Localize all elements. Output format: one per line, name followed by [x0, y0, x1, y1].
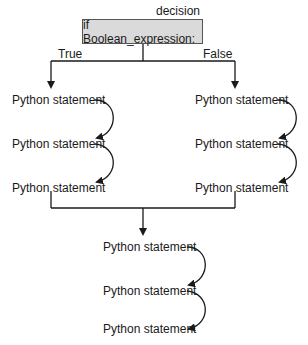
false-branch-label: False: [203, 47, 232, 61]
true-statement-3: Python statement: [12, 181, 105, 195]
after-statement-2: Python statement: [103, 284, 196, 298]
decision-box: if Boolean_expression:: [82, 19, 203, 44]
decision-label: decision: [156, 4, 200, 18]
true-branch-label: True: [58, 47, 82, 61]
true-statement-1: Python statement: [12, 93, 105, 107]
false-statement-3: Python statement: [195, 181, 288, 195]
true-statement-2: Python statement: [12, 137, 105, 151]
decision-text: if Boolean_expression:: [83, 18, 202, 46]
false-statement-2: Python statement: [195, 137, 288, 151]
after-statement-1: Python statement: [103, 240, 196, 254]
false-statement-1: Python statement: [195, 93, 288, 107]
after-statement-3: Python statement: [103, 322, 196, 336]
